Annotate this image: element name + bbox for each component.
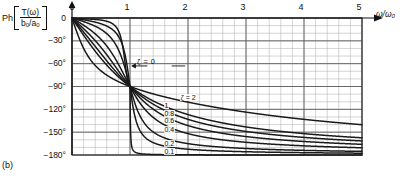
curve-label-zeta-2: ζ = 2 xyxy=(180,94,196,101)
y-axis-tick-labels: 0 −30° −60° −90° −120° −150° −180° xyxy=(28,0,66,176)
curve-label-zeta-0-2: 0.2 xyxy=(164,140,175,147)
y-tick-m90: −90° xyxy=(48,82,66,91)
y-tick-m150: −150° xyxy=(43,128,66,137)
y-tick-m30: −30° xyxy=(48,36,66,45)
annotation-zeta-zero: ζ = 0 xyxy=(137,57,156,66)
x-tick-5: 5 xyxy=(356,3,361,12)
curve-label-zeta-0-1: 0.1 xyxy=(164,148,175,155)
x-axis-tick-labels: 0 1 2 3 4 5 xyxy=(0,0,412,20)
phase-response-figure: Ph T(ω) b0/a0 0 −30° −60° −90° −120° −15… xyxy=(0,0,412,176)
x-tick-1: 1 xyxy=(124,3,129,12)
y-tick-m120: −120° xyxy=(43,105,66,114)
x-tick-0: 0 xyxy=(69,3,74,12)
x-tick-2: 2 xyxy=(182,3,187,12)
x-tick-3: 3 xyxy=(240,3,245,12)
figure-caption: (b) xyxy=(2,160,13,170)
y-tick-m60: −60° xyxy=(48,59,66,68)
curve-label-zeta-1: 1 xyxy=(164,102,169,109)
x-axis-name: ω/ω₀ xyxy=(376,9,395,19)
y-tick-m180: −180° xyxy=(43,151,66,160)
x-tick-4: 4 xyxy=(298,3,303,12)
curve-label-zeta-0-6: 0.6 xyxy=(164,117,175,124)
curve-label-zeta-0-4: 0.4 xyxy=(164,126,175,133)
